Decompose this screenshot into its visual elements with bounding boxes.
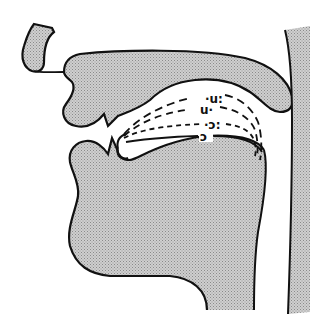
lower-jaw-tongue-shape <box>69 136 266 310</box>
nose-tip-shape <box>22 24 54 72</box>
nasal-line <box>34 71 64 72</box>
vocal-tract-diagram: ·u: u· ·ɔ: ɔ <box>0 0 332 330</box>
vowel-label-u-short: u· <box>200 103 213 117</box>
vowel-label-open-o-short: ɔ <box>200 130 207 144</box>
upper-jaw-palate-shape <box>63 51 292 127</box>
